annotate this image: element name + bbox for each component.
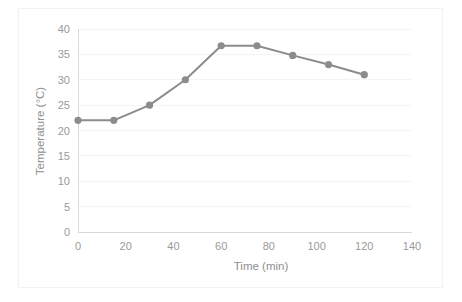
y-tick-label: 15 [58, 150, 70, 162]
y-tick-labels: 0510152025303540 [58, 23, 70, 238]
y-tick-label: 25 [58, 99, 70, 111]
series-line [78, 46, 364, 121]
data-point-marker [289, 52, 296, 59]
data-point-marker [218, 42, 225, 49]
x-tick-label: 60 [215, 240, 227, 252]
x-tick-label: 140 [403, 240, 421, 252]
line-chart: 0510152025303540 020406080100120140 Time… [0, 0, 462, 302]
x-axis-title: Time (min) [234, 260, 289, 272]
x-tick-label: 120 [355, 240, 373, 252]
x-tick-labels: 020406080100120140 [75, 240, 421, 252]
data-point-marker [146, 102, 153, 109]
data-point-marker [325, 61, 332, 68]
x-tick-label: 100 [307, 240, 325, 252]
y-tick-label: 5 [64, 201, 70, 213]
data-point-marker [182, 76, 189, 83]
y-tick-label: 35 [58, 48, 70, 60]
data-point-marker [74, 117, 81, 124]
y-axis-title: Temperature (°C) [34, 87, 46, 175]
data-point-marker [361, 71, 368, 78]
y-tick-label: 10 [58, 175, 70, 187]
x-tick-label: 0 [75, 240, 81, 252]
y-tick-label: 20 [58, 125, 70, 137]
data-point-marker [253, 42, 260, 49]
y-tick-label: 40 [58, 23, 70, 35]
x-tick-label: 20 [120, 240, 132, 252]
y-tick-label: 0 [64, 226, 70, 238]
x-tick-label: 80 [263, 240, 275, 252]
gridlines [78, 29, 412, 207]
data-point-marker [110, 117, 117, 124]
x-tick-label: 40 [167, 240, 179, 252]
y-tick-label: 30 [58, 74, 70, 86]
